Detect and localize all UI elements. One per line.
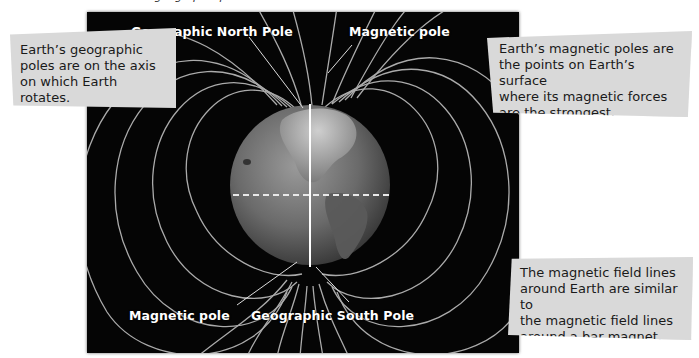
callout-magnetic-poles: Earth’s magnetic poles are the points on… [487,31,692,117]
callout-line: Earth’s geographic [20,42,166,58]
callout-line: are the strongest. [499,105,682,121]
label-magnetic-pole-bottom: Magnetic pole [129,308,230,323]
cropped-heading: … geographic poles … [140,0,380,6]
callout-line: The magnetic field lines [520,265,683,281]
callout-line: the magnetic field lines [520,313,683,329]
island-shape [243,159,251,165]
label-geographic-south-pole: Geographic South Pole [251,308,414,323]
callout-line: Earth’s magnetic poles are [499,41,682,57]
label-magnetic-pole-top: Magnetic pole [349,24,450,39]
callout-line: poles are on the axis [20,58,166,74]
callout-line: where its magnetic forces [499,89,682,105]
callout-field-lines: The magnetic field lines around Earth ar… [508,257,693,340]
callout-line: on which Earth rotates. [20,74,166,106]
callout-line: the points on Earth’s surface [499,57,682,89]
callout-line: around a bar magnet. [520,329,683,345]
callout-line: around Earth are similar to [520,281,683,313]
callout-geographic-poles: Earth’s geographic poles are on the axis… [10,28,176,108]
